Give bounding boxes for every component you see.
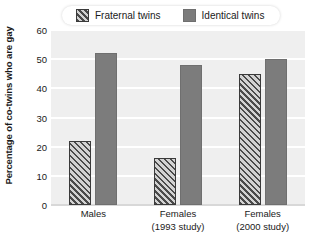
x-axis-tick-label-line1: Females	[160, 208, 196, 219]
bar-group	[239, 30, 287, 205]
y-axis-tick-label: 40	[19, 83, 47, 94]
solid-swatch-icon	[183, 9, 196, 22]
bar-fraternal[interactable]	[154, 158, 176, 205]
y-axis-tick-label: 60	[19, 25, 47, 36]
y-axis-title-text: Percentage of co-twins who are gay	[3, 26, 14, 184]
x-axis-tick-label-line2: (1993 study)	[130, 221, 226, 234]
bar-chart: Percentage of co-twins who are gay 01020…	[0, 0, 311, 245]
legend-item-label: Identical twins	[202, 10, 265, 21]
bar-identical[interactable]	[180, 65, 202, 205]
bars-layer	[51, 30, 305, 205]
y-axis-tick-labels: 0102030405060	[18, 30, 50, 205]
x-axis-tick-label: Females(2000 study)	[215, 208, 311, 233]
chart-legend: Fraternal twinsIdentical twins	[62, 6, 280, 25]
x-axis-tick-label-line1: Females	[244, 208, 280, 219]
y-axis-tick-label: 0	[19, 200, 47, 211]
legend-item[interactable]: Identical twins	[183, 9, 265, 22]
bar-identical[interactable]	[265, 59, 287, 205]
legend-item-label: Fraternal twins	[95, 10, 161, 21]
bar-fraternal[interactable]	[69, 141, 91, 205]
y-axis-tick-label: 10	[19, 170, 47, 181]
bar-fraternal[interactable]	[239, 74, 261, 205]
legend-item[interactable]: Fraternal twins	[76, 9, 161, 22]
bar-identical[interactable]	[95, 53, 117, 205]
x-axis-tick-labels: MalesFemales(1993 study)Females(2000 stu…	[51, 208, 305, 245]
x-axis-tick-label: Females(1993 study)	[130, 208, 226, 233]
x-axis-tick-label: Males	[45, 208, 141, 221]
x-axis-tick-label-line2: (2000 study)	[215, 221, 311, 234]
x-axis-tick-label-line1: Males	[81, 208, 106, 219]
bar-group	[154, 30, 202, 205]
y-axis-title: Percentage of co-twins who are gay	[0, 0, 16, 210]
y-axis-tick-label: 30	[19, 112, 47, 123]
hatched-swatch-icon	[76, 9, 89, 22]
y-axis-tick-label: 50	[19, 54, 47, 65]
y-axis-tick-label: 20	[19, 141, 47, 152]
bar-group	[69, 30, 117, 205]
